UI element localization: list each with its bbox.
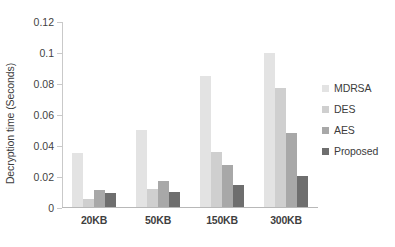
y-tick-label: 0.1: [39, 47, 54, 59]
bar-des-150kb: [211, 152, 222, 208]
bars-layer: [62, 22, 318, 207]
y-tick-label: 0: [48, 202, 54, 214]
bar-des-50kb: [147, 189, 158, 208]
bar-group-20kb: [62, 22, 126, 207]
legend-swatch-icon: [322, 106, 329, 113]
bar-group-50kb: [126, 22, 190, 207]
x-label-50kb: 50KB: [126, 214, 190, 226]
decryption-time-bar-chart: Decryption time (Seconds) 00.020.040.060…: [0, 0, 395, 247]
bar-proposed-300kb: [297, 176, 308, 207]
bar-aes-150kb: [222, 165, 233, 207]
bar-group-300kb: [254, 22, 318, 207]
legend-item-mdrsa[interactable]: MDRSA: [322, 82, 378, 94]
bar-mdrsa-300kb: [264, 53, 275, 207]
legend-label: DES: [334, 103, 355, 115]
legend-label: Proposed: [334, 145, 378, 157]
bar-mdrsa-150kb: [200, 76, 211, 207]
legend: MDRSADESAESProposed: [322, 82, 378, 157]
plot-area: 00.020.040.060.080.10.12: [62, 22, 318, 208]
y-tick-label: 0.02: [34, 171, 54, 183]
legend-swatch-icon: [322, 127, 329, 134]
legend-label: MDRSA: [334, 82, 371, 94]
bar-group-150kb: [190, 22, 254, 207]
y-tick-label: 0.08: [34, 78, 54, 90]
bar-aes-50kb: [158, 181, 169, 207]
y-tick-label: 0.12: [34, 16, 54, 28]
x-label-150kb: 150KB: [190, 214, 254, 226]
bar-proposed-50kb: [169, 192, 180, 207]
legend-item-aes[interactable]: AES: [322, 124, 378, 136]
bar-mdrsa-20kb: [72, 153, 83, 207]
y-tick-label: 0.04: [34, 140, 54, 152]
legend-swatch-icon: [322, 148, 329, 155]
x-axis-labels: 20KB50KB150KB300KB: [62, 214, 318, 226]
bar-des-20kb: [83, 199, 94, 207]
legend-label: AES: [334, 124, 355, 136]
bar-des-300kb: [275, 88, 286, 207]
legend-swatch-icon: [322, 85, 329, 92]
legend-item-proposed[interactable]: Proposed: [322, 145, 378, 157]
bar-aes-20kb: [94, 190, 105, 207]
bar-proposed-20kb: [105, 193, 116, 207]
y-axis-title: Decryption time (Seconds): [0, 0, 20, 247]
y-tick-label: 0.06: [34, 109, 54, 121]
bar-proposed-150kb: [233, 185, 244, 207]
bar-aes-300kb: [286, 133, 297, 207]
x-label-300kb: 300KB: [254, 214, 318, 226]
bar-mdrsa-50kb: [136, 130, 147, 207]
legend-item-des[interactable]: DES: [322, 103, 378, 115]
y-tick-mark: [57, 208, 62, 209]
x-axis-line: [62, 207, 318, 208]
x-label-20kb: 20KB: [62, 214, 126, 226]
